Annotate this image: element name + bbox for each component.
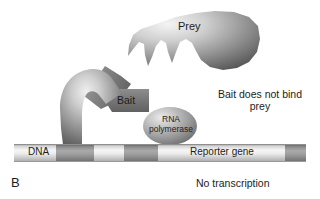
figure-panel-b: Prey Bait RNA polymerase DNA Reporter ge… [0, 0, 320, 199]
dna-segment-reporter-end [285, 144, 306, 162]
dna-segment-operator [124, 144, 158, 162]
rna-polymerase-label: RNA polymerase [142, 114, 200, 134]
no-transcription-annotation: No transcription [196, 177, 270, 189]
bait-shape [60, 66, 149, 145]
dna-bar [14, 144, 306, 162]
prey-label: Prey [178, 20, 201, 33]
reporter-gene-label: Reporter gene [190, 146, 254, 158]
panel-letter: B [11, 175, 20, 190]
dna-label: DNA [28, 146, 49, 158]
dna-segment-upstream [56, 144, 94, 162]
bait-does-not-bind-prey-annotation: Bait does not bind prey [212, 88, 308, 113]
bait-label: Bait [117, 94, 135, 106]
